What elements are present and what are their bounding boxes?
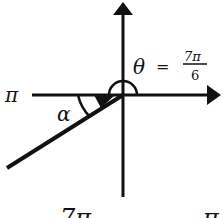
angle-diagram: π α θ = 7π 6 7π π [0, 0, 223, 218]
right-arrow-icon [207, 85, 221, 105]
equals-sign: = [156, 57, 169, 76]
theta-numerator: 7π [184, 49, 201, 64]
up-arrow-icon [113, 2, 133, 15]
bottom-left-partial-text: 7π [60, 204, 92, 218]
alpha-arc [78, 95, 90, 117]
theta-denominator: 6 [191, 68, 199, 83]
pi-axis-label: π [4, 83, 19, 107]
theta-symbol: θ [133, 55, 145, 79]
bottom-right-partial-text: π [202, 204, 220, 218]
alpha-label: α [57, 102, 71, 126]
